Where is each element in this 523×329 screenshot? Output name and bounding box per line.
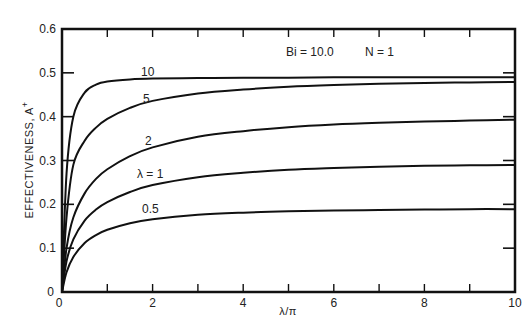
y-tick-label: 0: [47, 285, 54, 299]
curves: [62, 77, 515, 292]
curve-label-0-5: 0.5: [142, 202, 159, 216]
curve-label-2: 2: [145, 134, 152, 148]
x-axis-title: λ/π: [279, 305, 297, 317]
annotation-biot: Bi = 10.0: [286, 45, 334, 59]
curve-label-5: 5: [143, 92, 150, 106]
y-tick-label: 0.3: [39, 154, 56, 168]
effectiveness-chart: 00.10.20.30.40.50.6 0246810 EFFECTIVENES…: [0, 0, 523, 329]
y-axis-ticks: 00.10.20.30.40.50.6: [39, 22, 515, 299]
x-tick-label: 4: [240, 296, 247, 310]
y-tick-label: 0.5: [39, 66, 56, 80]
plot-frame: [62, 29, 515, 292]
x-tick-label: 8: [421, 296, 428, 310]
curve-label-10: 10: [141, 65, 155, 79]
y-tick-label: 0.4: [39, 110, 56, 124]
x-tick-label: 10: [508, 296, 522, 310]
curve-lambda-0-5: [62, 209, 515, 292]
y-axis-title: EFFECTIVENESS, A+: [20, 101, 35, 218]
x-tick-label: 2: [149, 296, 156, 310]
y-tick-label: 0.2: [39, 197, 56, 211]
curve-lambda-10: [62, 77, 515, 292]
curve-lambda-1: [62, 165, 515, 292]
y-tick-label: 0.6: [39, 22, 56, 36]
annotation-n: N = 1: [365, 45, 394, 59]
curve-label-1: λ = 1: [137, 167, 164, 181]
y-tick-label: 0.1: [39, 241, 56, 255]
curve-lambda-5: [62, 82, 515, 292]
x-tick-label: 0: [56, 296, 63, 310]
curve-lambda-2: [62, 120, 515, 292]
x-tick-label: 6: [330, 296, 337, 310]
